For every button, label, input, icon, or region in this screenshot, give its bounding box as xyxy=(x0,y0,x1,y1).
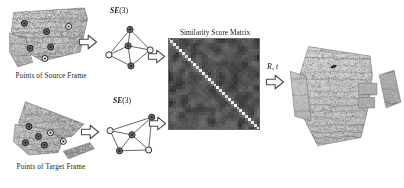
target-se3-prefix: SE xyxy=(113,96,122,105)
similarity-score-matrix xyxy=(168,38,260,130)
source-se3-prefix: SE xyxy=(110,6,119,15)
arrow-target-graph-to-matrix xyxy=(148,114,167,133)
target-caption: Points of Target Frame xyxy=(2,163,100,171)
pipeline-figure: Points of Source Frame SE(3) Points of T… xyxy=(0,0,404,188)
source-se3-label: SE(3) xyxy=(110,6,128,15)
target-se3-label: SE(3) xyxy=(113,96,131,105)
similarity-matrix-title: Similarity Score Matrix xyxy=(160,28,270,37)
arrow-source-to-graph xyxy=(78,32,98,52)
arrow-matrix-to-result xyxy=(265,72,285,92)
transform-label: R, t xyxy=(267,62,278,71)
registered-result-point-cloud xyxy=(288,36,402,154)
arrow-target-to-graph xyxy=(80,122,100,142)
source-caption: Points of Source Frame xyxy=(2,72,100,80)
arrow-source-graph-to-matrix xyxy=(147,47,166,66)
target-se3-suffix: (3) xyxy=(122,96,131,105)
source-se3-suffix: (3) xyxy=(119,6,128,15)
